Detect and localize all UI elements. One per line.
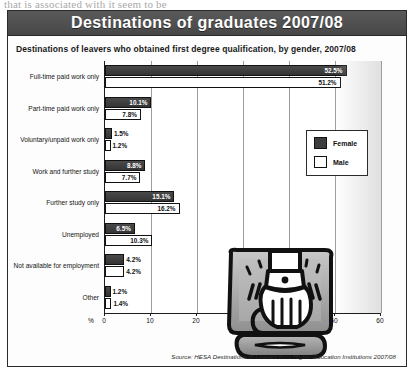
bar-male: 7.8% — [105, 109, 141, 120]
x-axis-unit-label: % — [88, 317, 94, 324]
bar-value-label: 10.1% — [129, 99, 150, 106]
bar-male: 1.4% — [105, 298, 111, 309]
page-bleed-text: that is associated with it seem to be — [4, 0, 264, 10]
bar-female: 15.1% — [105, 191, 174, 202]
legend-label-female: Female — [333, 140, 357, 147]
bar-value-label: 8.8% — [127, 162, 145, 169]
chart-category-row: Unemployed6.5%10.3% — [105, 223, 381, 246]
chart-category-row: Further study only15.1%16.2% — [105, 191, 381, 214]
legend-label-male: Male — [333, 159, 349, 166]
bar-male: 4.2% — [105, 266, 124, 277]
bar-female: 52.5% — [105, 65, 347, 76]
bar-value-label: 4.2% — [126, 256, 141, 263]
chart-legend: Female Male — [306, 130, 368, 176]
bar-value-label: 1.2% — [113, 288, 128, 295]
bar-value-label: 1.2% — [113, 142, 128, 149]
bar-male: 7.7% — [105, 172, 140, 183]
legend-swatch-male-icon — [314, 156, 327, 168]
category-label: Unemployed — [0, 231, 99, 238]
legend-item-female: Female — [314, 137, 367, 149]
axis-tick — [150, 313, 151, 316]
category-label: Not available for employment — [0, 262, 99, 269]
category-label: Full-time paid work only — [0, 73, 99, 80]
axis-tick-label: 0 — [102, 317, 106, 324]
axis-tick — [196, 313, 197, 316]
grid-line — [381, 61, 382, 313]
bar-value-label: 16.2% — [157, 205, 178, 212]
axis-tick-label: 60 — [376, 317, 383, 324]
bar-value-label: 4.2% — [126, 268, 141, 275]
category-label: Part-time paid work only — [0, 105, 99, 112]
bar-value-label: 10.3% — [130, 237, 151, 244]
bar-value-label: 1.4% — [113, 300, 128, 307]
legend-swatch-female-icon — [314, 137, 327, 149]
bar-male: 51.2% — [105, 77, 341, 88]
plot-area: Full-time paid work only52.5%51.2%Part-t… — [16, 57, 398, 345]
bar-value-label: 7.7% — [122, 174, 140, 181]
chart-source: Source: HESA Destinations of Leavers fro… — [171, 353, 396, 360]
bar-female: 6.5% — [105, 223, 135, 234]
chart-figure: Destinations of graduates 2007/08 Destin… — [7, 10, 407, 367]
bar-value-label: 6.5% — [116, 225, 134, 232]
chart-category-row: Full-time paid work only52.5%51.2% — [105, 65, 381, 88]
axis-tick — [104, 313, 105, 316]
bar-female: 1.2% — [105, 286, 111, 297]
axis-tick — [380, 313, 381, 316]
chart-category-row: Part-time paid work only10.1%7.8% — [105, 97, 381, 120]
bar-value-label: 1.5% — [114, 130, 129, 137]
bar-male: 10.3% — [105, 235, 152, 246]
axis-tick-label: 10 — [146, 317, 153, 324]
category-label: Work and further study — [0, 168, 99, 175]
category-label: Other — [0, 294, 99, 301]
bar-value-label: 51.2% — [318, 79, 339, 86]
chart-title: Destinations of graduates 2007/08 — [71, 14, 343, 32]
legend-item-male: Male — [314, 156, 367, 168]
bar-female: 1.5% — [105, 128, 112, 139]
category-label: Voluntary/unpaid work only — [0, 136, 99, 143]
category-label: Further study only — [0, 199, 99, 206]
bar-value-label: 52.5% — [324, 67, 345, 74]
axis-tick-label: 20 — [192, 317, 199, 324]
hand-reaching-out-of-monitor-icon — [221, 247, 339, 365]
bar-value-label: 7.8% — [122, 111, 140, 118]
bar-male: 1.2% — [105, 140, 111, 151]
chart-title-bar: Destinations of graduates 2007/08 — [8, 11, 406, 36]
bar-female: 10.1% — [105, 97, 151, 108]
bar-female: 8.8% — [105, 160, 145, 171]
bar-value-label: 15.1% — [152, 193, 173, 200]
bar-female: 4.2% — [105, 254, 124, 265]
bar-male: 16.2% — [105, 203, 180, 214]
chart-subtitle: Destinations of leavers who obtained fir… — [16, 44, 406, 54]
